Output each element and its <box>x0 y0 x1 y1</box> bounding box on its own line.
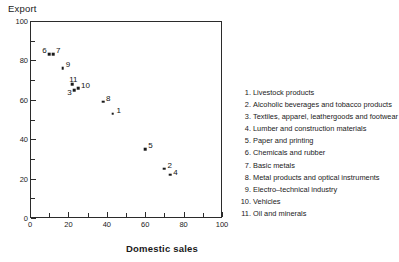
y-tick-label-40: 40 <box>20 135 28 144</box>
plot-area: 020406080100 020406080100 1234567911108 <box>30 21 222 218</box>
data-point-label-7: 7 <box>56 46 60 55</box>
legend-item-number: 9. <box>240 184 251 196</box>
x-tick-20: 20 <box>68 212 69 217</box>
y-tick-label-60: 60 <box>20 95 28 104</box>
x-minor-tick-10 <box>49 213 50 217</box>
data-point-label-6: 6 <box>42 46 46 55</box>
x-tick-label-40: 40 <box>103 220 111 229</box>
axis-line-top <box>30 21 222 22</box>
scatter-chart-figure: Export 020406080100 020406080100 1234567… <box>0 0 399 262</box>
legend-item-number: 10. <box>240 196 251 208</box>
legend-item-label: Electro–technical industry <box>253 185 337 194</box>
legend-item-label: Lumber and construction materials <box>253 124 366 133</box>
data-point-label-5: 5 <box>148 141 152 150</box>
data-point-label-1: 1 <box>117 106 121 115</box>
legend-item: 4.Lumber and construction materials <box>240 123 396 135</box>
data-point-label-11: 11 <box>69 75 77 84</box>
x-tick-label-100: 100 <box>216 220 229 229</box>
x-minor-tick-70 <box>164 213 165 217</box>
x-tick-80: 80 <box>184 212 185 217</box>
legend-item-label: Metal products and optical instruments <box>253 173 380 182</box>
legend-item-number: 6. <box>240 147 251 159</box>
legend-item-label: Textiles, apparel, leathergoods and foot… <box>253 112 398 121</box>
x-tick-60: 60 <box>145 212 146 217</box>
y-minor-tick-30 <box>31 159 35 160</box>
y-tick-40: 40 <box>31 139 36 140</box>
data-point-label-2: 2 <box>167 161 171 170</box>
y-tick-60: 60 <box>31 100 36 101</box>
data-point-label-3: 3 <box>67 88 71 97</box>
y-minor-tick-50 <box>31 120 35 121</box>
data-point-label-8: 8 <box>106 94 110 103</box>
y-axis-title: Export <box>8 3 37 14</box>
legend-item-number: 5. <box>240 135 251 147</box>
data-point-label-10: 10 <box>81 81 90 90</box>
legend-item: 3.Textiles, apparel, leathergoods and fo… <box>240 111 396 123</box>
legend-item-number: 3. <box>240 111 251 123</box>
x-tick-label-20: 20 <box>64 220 72 229</box>
y-minor-tick-10 <box>31 198 35 199</box>
legend-item-number: 4. <box>240 123 251 135</box>
data-point-7 <box>52 53 55 56</box>
y-tick-20: 20 <box>31 179 36 180</box>
legend-item: 8.Metal products and optical instruments <box>240 172 396 184</box>
data-point-3 <box>73 89 76 92</box>
data-point-label-4: 4 <box>173 168 177 177</box>
legend-item-number: 7. <box>240 160 251 172</box>
x-minor-tick-90 <box>203 213 204 217</box>
data-point-4 <box>169 173 172 176</box>
x-minor-tick-50 <box>126 213 127 217</box>
legend-item: 1.Livestock products <box>240 87 396 99</box>
data-point-label-9: 9 <box>66 60 70 69</box>
data-point-10 <box>77 87 80 90</box>
x-tick-100: 100 <box>222 212 223 217</box>
y-tick-0: 0 <box>31 218 36 219</box>
legend-item: 2.Alcoholic beverages and tobacco produc… <box>240 99 396 111</box>
data-point-6 <box>48 53 51 56</box>
x-tick-label-0: 0 <box>28 220 32 229</box>
legend-item-number: 11. <box>240 208 251 220</box>
x-tick-label-60: 60 <box>141 220 149 229</box>
data-point-8 <box>102 100 105 103</box>
axis-line-bottom <box>30 217 222 218</box>
legend-item-number: 1. <box>240 87 251 99</box>
data-point-2 <box>163 167 166 170</box>
legend-item: 11.Oil and minerals <box>240 208 396 220</box>
x-tick-label-80: 80 <box>179 220 187 229</box>
legend-item: 7.Basic metals <box>240 160 396 172</box>
y-tick-label-80: 80 <box>20 56 28 65</box>
legend-item: 5.Paper and printing <box>240 135 396 147</box>
legend-item: 6.Chemicals and rubber <box>240 147 396 159</box>
y-minor-tick-90 <box>31 41 35 42</box>
legend-item-label: Vehicles <box>253 197 281 206</box>
y-tick-80: 80 <box>31 60 36 61</box>
x-tick-40: 40 <box>107 212 108 217</box>
legend-item-label: Livestock products <box>253 88 314 97</box>
x-tick-0: 0 <box>30 212 31 217</box>
y-tick-label-20: 20 <box>20 174 28 183</box>
legend: 1.Livestock products2.Alcoholic beverage… <box>240 87 396 220</box>
legend-item-number: 8. <box>240 172 251 184</box>
y-minor-tick-70 <box>31 80 35 81</box>
y-tick-100: 100 <box>31 21 36 22</box>
legend-item-label: Alcoholic beverages and tobacco products <box>253 100 392 109</box>
y-tick-label-100: 100 <box>15 17 28 26</box>
legend-item: 10.Vehicles <box>240 196 396 208</box>
legend-item-label: Paper and printing <box>253 136 313 145</box>
legend-item-label: Oil and minerals <box>253 209 306 218</box>
x-axis-title: Domestic sales <box>126 243 198 254</box>
legend-item-label: Chemicals and rubber <box>253 148 325 157</box>
legend-item-label: Basic metals <box>253 161 295 170</box>
x-minor-tick-30 <box>88 213 89 217</box>
legend-item-number: 2. <box>240 99 251 111</box>
data-point-1 <box>111 112 114 115</box>
legend-item: 9.Electro–technical industry <box>240 184 396 196</box>
data-point-9 <box>61 67 64 70</box>
axis-line-right <box>221 21 222 218</box>
data-point-5 <box>144 148 147 151</box>
